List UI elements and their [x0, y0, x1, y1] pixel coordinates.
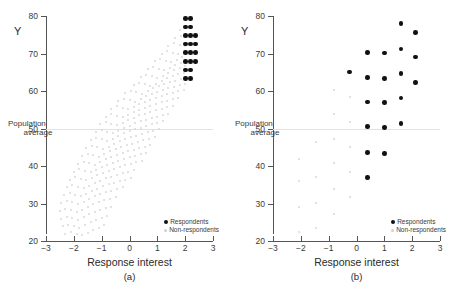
- non-respondent-data-point: [98, 201, 100, 203]
- non-respondent-data-point: [179, 44, 181, 46]
- non-respondent-data-point: [158, 68, 160, 70]
- x-tick-label: 2: [400, 243, 424, 253]
- y-tick-label: 70: [227, 49, 265, 59]
- non-respondent-data-point: [159, 58, 161, 60]
- non-respondent-data-point: [105, 158, 107, 160]
- non-respondent-data-point: [69, 192, 71, 194]
- non-respondent-data-point: [183, 89, 185, 91]
- non-respondent-data-point: [119, 140, 121, 142]
- non-respondent-data-point: [137, 141, 139, 143]
- non-respondent-data-point: [130, 177, 132, 179]
- non-respondent-data-point: [151, 117, 153, 119]
- non-respondent-data-point: [349, 96, 351, 98]
- respondent-data-point: [183, 59, 188, 64]
- y-tick-mark: [41, 241, 46, 242]
- non-respondent-data-point: [167, 113, 169, 115]
- non-respondent-data-point: [66, 216, 68, 218]
- non-respondent-data-point: [60, 202, 62, 204]
- x-tick-label: 1: [372, 243, 396, 253]
- respondent-data-point: [399, 47, 404, 52]
- non-respondent-data-point: [141, 133, 143, 135]
- non-respondent-data-point: [94, 195, 96, 197]
- non-respondent-data-point: [101, 166, 103, 168]
- non-respondent-data-point: [165, 60, 167, 62]
- non-respondent-data-point: [149, 144, 151, 146]
- non-respondent-data-point: [124, 138, 126, 140]
- non-respondent-data-point: [94, 164, 96, 166]
- non-respondent-marker-icon: [391, 229, 394, 232]
- non-respondent-data-point: [145, 74, 147, 76]
- non-respondent-data-point: [103, 199, 105, 201]
- legend-b: Respondents Non-respondents: [391, 218, 446, 234]
- non-respondent-data-point: [180, 62, 182, 64]
- non-respondent-data-point: [105, 207, 107, 209]
- x-tick-label: 1: [145, 243, 169, 253]
- non-respondent-data-point: [95, 131, 97, 133]
- non-respondent-data-point: [71, 217, 73, 219]
- non-respondent-data-point: [152, 87, 154, 89]
- non-respondent-data-point: [59, 210, 61, 212]
- non-respondent-data-point: [181, 56, 183, 58]
- non-respondent-data-point: [106, 131, 108, 133]
- respondent-data-point: [193, 33, 198, 38]
- non-respondent-data-point: [122, 186, 124, 188]
- non-respondent-data-point: [66, 200, 68, 202]
- non-respondent-data-point: [88, 185, 90, 187]
- non-respondent-data-point: [155, 97, 157, 99]
- x-tick-mark: [440, 236, 441, 241]
- non-respondent-data-point: [91, 145, 93, 147]
- non-respondent-data-point: [144, 101, 146, 103]
- non-respondent-data-point: [158, 85, 160, 87]
- non-respondent-data-point: [333, 162, 335, 164]
- x-axis-line-a: [46, 241, 213, 242]
- respondent-data-point: [413, 55, 418, 60]
- non-respondent-data-point: [98, 227, 100, 229]
- non-respondent-data-point: [110, 206, 112, 208]
- y-tick-label: 20: [0, 236, 38, 246]
- non-respondent-data-point: [166, 50, 168, 52]
- non-respondent-data-point: [173, 42, 175, 44]
- respondent-data-point: [183, 16, 188, 21]
- non-respondent-data-point: [147, 131, 149, 133]
- non-respondent-data-point: [102, 172, 104, 174]
- non-respondent-data-point: [105, 177, 107, 179]
- non-respondent-data-point: [76, 211, 78, 213]
- respondent-data-point: [365, 175, 370, 180]
- non-respondent-data-point: [103, 153, 105, 155]
- non-respondent-data-point: [149, 85, 151, 87]
- non-respondent-data-point: [129, 125, 131, 127]
- non-respondent-data-point: [161, 80, 163, 82]
- non-respondent-data-point: [90, 171, 92, 173]
- non-respondent-data-point: [110, 176, 112, 178]
- respondent-data-point: [183, 25, 188, 30]
- non-respondent-data-point: [149, 99, 151, 101]
- non-respondent-data-point: [69, 179, 71, 181]
- respondent-data-point: [413, 30, 418, 35]
- non-respondent-data-point: [167, 87, 169, 89]
- legend-row-respondents-a: Respondents: [164, 218, 219, 226]
- non-respondent-data-point: [102, 185, 104, 187]
- respondent-data-point: [183, 68, 188, 73]
- non-respondent-data-point: [129, 130, 131, 132]
- non-respondent-data-point: [124, 179, 126, 181]
- non-respondent-data-point: [99, 123, 101, 125]
- y-tick-label: 60: [227, 86, 265, 96]
- non-respondent-data-point: [138, 103, 140, 105]
- population-average-line1-a: Population: [8, 119, 46, 128]
- respondent-marker-icon: [164, 220, 168, 224]
- non-respondent-data-point: [166, 93, 168, 95]
- non-respondent-data-point: [133, 149, 135, 151]
- respondent-data-point: [188, 50, 193, 55]
- non-respondent-data-point: [174, 64, 176, 66]
- non-respondent-data-point: [145, 125, 147, 127]
- non-respondent-data-point: [315, 202, 317, 204]
- x-tick-label: 3: [201, 243, 225, 253]
- respondent-data-point: [347, 70, 352, 75]
- non-respondent-data-point: [64, 233, 66, 235]
- y-tick-label: 40: [0, 161, 38, 171]
- non-respondent-data-point: [87, 232, 89, 234]
- x-tick-label: −1: [317, 243, 341, 253]
- non-respondent-data-point: [169, 67, 171, 69]
- non-respondent-data-point: [122, 116, 124, 118]
- non-respondent-data-point: [96, 146, 98, 148]
